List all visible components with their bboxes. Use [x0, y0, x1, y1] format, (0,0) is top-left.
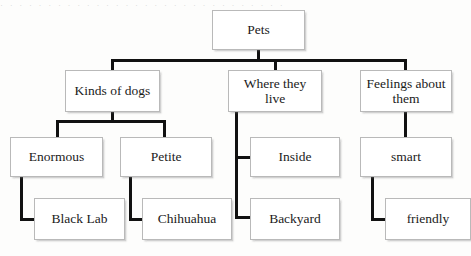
node-black-lab[interactable]: Black Lab: [34, 198, 125, 240]
node-friendly-label: friendly: [404, 211, 453, 227]
node-chihuahua[interactable]: Chihuahua: [142, 198, 232, 240]
node-feelings-about-them[interactable]: Feelings about them: [360, 70, 452, 112]
connector-level2-bus: [111, 59, 407, 62]
node-petite[interactable]: Petite: [120, 137, 212, 177]
connector-drop-petite: [163, 120, 166, 138]
node-kinds-of-dogs-label: Kinds of dogs: [72, 83, 154, 99]
node-where-they-live[interactable]: Where they live: [228, 70, 322, 112]
node-backyard[interactable]: Backyard: [250, 198, 340, 240]
node-chihuahua-label: Chihuahua: [155, 211, 220, 227]
node-inside[interactable]: Inside: [250, 137, 340, 177]
connector-elbow-chihuahua-v: [129, 177, 132, 221]
node-smart[interactable]: smart: [360, 137, 452, 177]
node-pets-label: Pets: [244, 22, 273, 38]
connector-drop-smart: [404, 112, 407, 138]
page-scan-artifact: · · · · · · · · · · · · · · · · · · · · …: [0, 0, 471, 6]
connector-elbow-friendly-v: [371, 177, 374, 221]
node-smart-label: smart: [388, 149, 424, 165]
node-black-lab-label: Black Lab: [49, 211, 111, 227]
connector-where-trunk: [235, 112, 238, 219]
diagram-canvas: · · · · · · · · · · · · · · · · · · · · …: [0, 0, 471, 256]
node-enormous-label: Enormous: [26, 149, 88, 165]
node-petite-label: Petite: [148, 149, 185, 165]
node-kinds-of-dogs[interactable]: Kinds of dogs: [65, 70, 160, 112]
connector-drop-enormous: [56, 120, 59, 138]
connector-kinds-bus: [56, 120, 166, 123]
node-pets[interactable]: Pets: [212, 10, 305, 50]
node-enormous[interactable]: Enormous: [10, 137, 103, 177]
node-backyard-label: Backyard: [266, 211, 324, 227]
node-inside-label: Inside: [276, 149, 315, 165]
connector-elbow-blacklab-v: [20, 177, 23, 221]
node-feelings-about-them-label: Feelings about them: [361, 76, 451, 107]
node-friendly[interactable]: friendly: [385, 198, 471, 240]
node-where-they-live-label: Where they live: [229, 76, 321, 107]
